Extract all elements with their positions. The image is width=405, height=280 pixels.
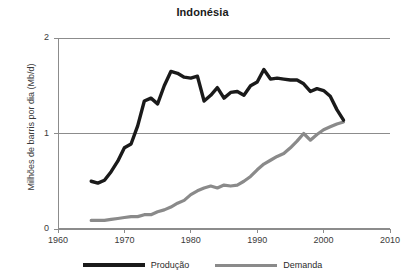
legend-label-producao: Produção: [151, 260, 190, 270]
x-tick-label-1970: 1970: [106, 235, 142, 245]
legend-swatch-demanda: [215, 264, 277, 267]
y-tick-label-2: 2: [29, 32, 49, 42]
y-tick-label-0: 0: [29, 223, 49, 233]
y-tick-label-1: 1: [29, 128, 49, 138]
x-tick-label-2000: 2000: [306, 235, 342, 245]
series-line-produo: [91, 70, 343, 184]
series-line-demanda: [91, 122, 343, 220]
x-tick-label-2010: 2010: [372, 235, 405, 245]
axes-layer: [54, 38, 390, 233]
x-tick-label-1960: 1960: [40, 235, 76, 245]
legend-label-demanda: Demanda: [283, 260, 322, 270]
series-layer: [91, 70, 343, 221]
legend-item-demanda: Demanda: [215, 260, 322, 270]
legend-swatch-producao: [83, 263, 145, 267]
chart-legend: Produção Demanda: [0, 252, 405, 278]
x-tick-label-1990: 1990: [239, 235, 275, 245]
x-tick-label-1980: 1980: [173, 235, 209, 245]
chart-container: Indonésia Milhões de barris por dia (Mb/…: [0, 0, 405, 280]
legend-item-producao: Produção: [83, 260, 190, 270]
